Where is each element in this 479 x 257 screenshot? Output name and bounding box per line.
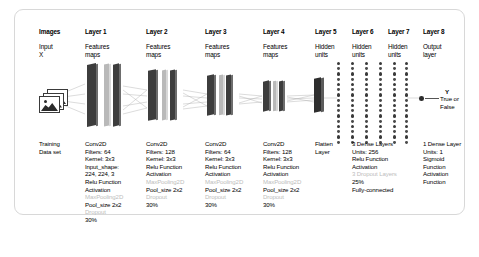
diagram-panel: Images Input X Layer 1 Features maps Lay… — [14, 9, 465, 215]
description-line: Kernel: 3x3 — [263, 155, 321, 163]
pooling-slab — [162, 70, 166, 120]
description-line: Filters: 128 — [263, 148, 321, 156]
dropout-slab — [279, 81, 283, 111]
description-line: Dropout — [85, 208, 143, 216]
description-line: Activation — [263, 170, 321, 178]
description-dense: 3 Dense LayersUnits: 256Relu FunctionAct… — [352, 140, 418, 193]
dense-unit-dot — [351, 135, 354, 138]
dense-unit-dot — [365, 83, 368, 86]
dense-unit-dot — [405, 78, 408, 81]
dense-unit-dot — [393, 120, 396, 123]
dense-unit-column — [393, 62, 396, 146]
dense-unit-dot — [337, 109, 340, 112]
description-line: 25% — [352, 178, 418, 186]
description-line: Dropout — [146, 193, 204, 201]
column-title: Layer 6 — [352, 28, 374, 35]
description-line: Kernel: 3x3 — [85, 155, 143, 163]
column-subtitle: Features maps — [146, 43, 170, 58]
column-title: Layer 4 — [263, 28, 287, 35]
dense-unit-dot — [405, 93, 408, 96]
description-line: Sigmoid — [423, 155, 473, 163]
description-line: Activation — [352, 163, 418, 171]
photo-layer-front — [39, 96, 60, 113]
description-line: Activation — [85, 186, 143, 194]
column-header-layer5: Layer 5 Hidden units — [315, 21, 337, 65]
dense-unit-dot — [405, 130, 408, 133]
description-line: Dropout — [205, 193, 263, 201]
pooling-slab — [273, 81, 276, 111]
flatten-layer-shape — [314, 78, 321, 112]
description-line: Function — [423, 163, 473, 171]
dense-unit-dot — [365, 125, 368, 128]
column-subtitle: Input X — [39, 43, 60, 58]
dense-unit-dot — [393, 93, 396, 96]
dense-unit-dot — [337, 62, 340, 65]
photo-sun-shape — [44, 100, 47, 103]
description-line: Conv2D — [263, 140, 321, 148]
dense-unit-dot — [405, 72, 408, 75]
dense-unit-dot — [337, 114, 340, 117]
dense-unit-dot — [393, 62, 396, 65]
dense-unit-dot — [405, 109, 408, 112]
column-title: Images — [39, 28, 60, 35]
dense-unit-dot — [379, 83, 382, 86]
input-images-icon — [39, 89, 69, 116]
column-subtitle: Features maps — [85, 43, 109, 58]
photo-mountain-shape — [41, 102, 58, 111]
dense-unit-dot — [405, 135, 408, 138]
description-line: Relu Function — [352, 155, 418, 163]
dense-unit-dot — [337, 99, 340, 102]
description-line: MaxPooling2D — [146, 178, 204, 186]
dense-unit-dot — [365, 78, 368, 81]
dense-unit-column — [405, 62, 408, 146]
description-flatten: FlattenLayer — [315, 140, 351, 155]
dropout-slab — [113, 64, 119, 126]
dense-unit-dot — [351, 72, 354, 75]
dense-unit-dot — [365, 62, 368, 65]
description-line: MaxPooling2D — [205, 178, 263, 186]
column-title: Layer 3 — [205, 28, 229, 35]
dense-unit-dot — [405, 99, 408, 102]
dense-unit-dot — [337, 93, 340, 96]
description-line: Conv2D — [85, 140, 143, 148]
column-subtitle: Hidden units — [352, 43, 374, 58]
description-line: Pool_size 2x2 — [205, 186, 263, 194]
dense-unit-dot — [379, 135, 382, 138]
description-line: Data set — [39, 148, 85, 156]
dense-unit-dot — [351, 93, 354, 96]
column-subtitle: Features maps — [263, 43, 287, 58]
dense-unit-dot — [365, 72, 368, 75]
pooling-slab — [104, 64, 109, 126]
dense-unit-dot — [379, 114, 382, 117]
dense-unit-dot — [365, 120, 368, 123]
dense-unit-dot — [337, 104, 340, 107]
description-line: 3 Dropout Layers — [352, 170, 418, 178]
dense-unit-dot — [393, 72, 396, 75]
description-line: Input_shape: — [85, 163, 143, 171]
dense-unit-dot — [379, 99, 382, 102]
dense-unit-dot — [337, 83, 340, 86]
dense-unit-dot — [351, 62, 354, 65]
description-line: Filters: 64 — [85, 148, 143, 156]
dense-unit-dot — [379, 72, 382, 75]
description-line: Activation — [423, 170, 473, 178]
column-header-layer3: Layer 3 Features maps — [205, 21, 229, 65]
description-line: 3 Dense Layers — [352, 140, 418, 148]
description-line: 224, 224, 3 — [85, 170, 143, 178]
dense-unit-column — [365, 62, 368, 146]
description-line: Flatten — [315, 140, 351, 148]
column-header-layer2: Layer 2 Features maps — [146, 21, 170, 65]
dense-unit-dot — [337, 135, 340, 138]
dense-unit-dot — [365, 130, 368, 133]
dense-unit-dot — [351, 130, 354, 133]
dropout-slab — [226, 75, 231, 115]
dropout-slab — [170, 70, 175, 120]
column-subtitle: Hidden units — [388, 43, 410, 58]
description-line: MaxPooling2D — [85, 193, 143, 201]
dense-unit-dot — [351, 109, 354, 112]
description-layer3: Conv2DFilters: 64Kernel: 3x3Relu Functio… — [205, 140, 263, 208]
description-line: Fully-connected — [352, 186, 418, 194]
dense-unit-dot — [379, 62, 382, 65]
dense-unit-dot — [393, 114, 396, 117]
dense-unit-dot — [351, 120, 354, 123]
